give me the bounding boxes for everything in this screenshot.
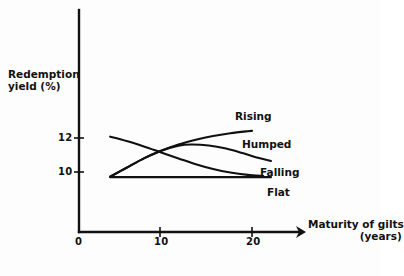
x-axis-title-line2: (years) (308, 230, 404, 242)
y-tick-label-10: 10 (58, 166, 72, 178)
y-tick-label-12: 12 (58, 132, 72, 144)
curve-label-rising: Rising (235, 110, 272, 122)
y-axis-title-line1: Redemption (8, 68, 80, 80)
curve-label-flat: Flat (267, 186, 290, 198)
x-tick-label-20: 20 (246, 236, 260, 248)
x-axis-title-line1: Maturity of gilts (308, 218, 404, 230)
x-axis-title: Maturity of gilts (years) (308, 218, 404, 243)
y-axis-title-line2: yield (%) (8, 80, 60, 92)
curve-label-humped: Humped (242, 138, 291, 150)
curve-rising (110, 131, 252, 177)
curve-label-falling: Falling (260, 166, 299, 178)
y-axis-title: Redemption yield (%) (8, 68, 80, 93)
x-tick-label-10: 10 (154, 236, 168, 248)
x-tick-label-0: 0 (75, 236, 82, 248)
